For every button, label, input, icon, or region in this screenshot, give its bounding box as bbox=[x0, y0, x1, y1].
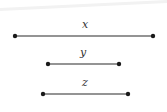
segment-z: z bbox=[41, 76, 130, 96]
segment-y-label: y bbox=[79, 46, 87, 59]
segment-y-start-point bbox=[46, 62, 50, 66]
segment-z-label: z bbox=[81, 76, 88, 89]
segment-z-end-point bbox=[126, 92, 130, 96]
segment-y-end-point bbox=[117, 62, 121, 66]
segments-diagram: x y z bbox=[0, 0, 167, 112]
segment-y: y bbox=[46, 46, 121, 66]
segment-x-end-point bbox=[151, 34, 155, 38]
scan-edge-artifact bbox=[0, 0, 167, 11]
segment-x: x bbox=[13, 18, 155, 38]
segment-z-start-point bbox=[41, 92, 45, 96]
segment-x-start-point bbox=[13, 34, 17, 38]
segment-x-label: x bbox=[82, 18, 89, 31]
